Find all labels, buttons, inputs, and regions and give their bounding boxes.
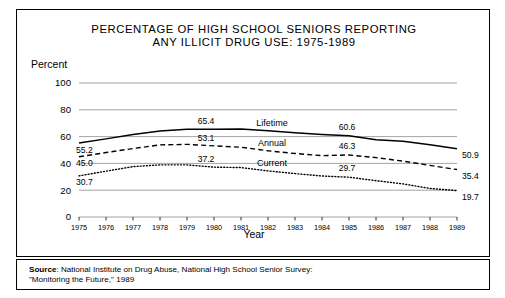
gridlines-group bbox=[79, 83, 457, 217]
x-tick-label: 1975 bbox=[71, 223, 87, 232]
series-name-lifetime: Lifetime bbox=[256, 118, 288, 128]
y-tick-label: 80 bbox=[60, 104, 71, 115]
source-line-2: "Monitoring the Future," 1989 bbox=[29, 275, 134, 284]
series-name-current: Current bbox=[257, 158, 288, 168]
end-value-label-lifetime: 50.9 bbox=[462, 150, 479, 160]
start-value-label-annual: 45.0 bbox=[76, 158, 93, 168]
end-value-label-annual: 35.4 bbox=[462, 171, 479, 181]
source-line-1: : National Institute on Drug Abuse, Nati… bbox=[56, 265, 312, 274]
x-tick-label: 1987 bbox=[395, 223, 411, 232]
late-value-label-current: 29.7 bbox=[339, 163, 356, 173]
series-line-current bbox=[79, 165, 457, 191]
mid-value-label-lifetime: 65.4 bbox=[198, 116, 215, 126]
y-tick-label: 100 bbox=[55, 77, 71, 88]
x-tick-label: 1984 bbox=[314, 223, 330, 232]
late-value-label-lifetime: 60.6 bbox=[339, 122, 356, 132]
source-note: Source: National Institute on Drug Abuse… bbox=[29, 265, 479, 285]
y-tick-label: 20 bbox=[60, 185, 71, 196]
start-value-label-current: 30.7 bbox=[76, 177, 93, 187]
x-tick-label: 1988 bbox=[422, 223, 438, 232]
series-value-labels-group: 55.265.4Lifetime60.650.945.053.1Annual46… bbox=[76, 116, 479, 201]
source-panel: Source: National Institute on Drug Abuse… bbox=[16, 259, 490, 290]
y-tick-label: 0 bbox=[66, 211, 71, 222]
x-tick-label: 1989 bbox=[449, 223, 465, 232]
late-value-label-annual: 46.3 bbox=[339, 141, 356, 151]
x-tick-label: 1985 bbox=[341, 223, 357, 232]
x-tick-labels-group: 1975197619771978197919801981198219831984… bbox=[71, 223, 465, 232]
plot-area: 020406080100 197519761977197819791980198… bbox=[17, 10, 491, 258]
x-tick-label: 1980 bbox=[206, 223, 222, 232]
x-axis-title: Year bbox=[243, 228, 265, 240]
start-value-label-lifetime: 55.2 bbox=[76, 145, 93, 155]
y-tick-label: 60 bbox=[60, 131, 71, 142]
x-tick-label: 1983 bbox=[287, 223, 303, 232]
chart-panel: PERCENTAGE OF HIGH SCHOOL SENIORS REPORT… bbox=[16, 9, 490, 257]
end-value-label-current: 19.7 bbox=[462, 192, 479, 202]
y-tick-labels-group: 020406080100 bbox=[55, 77, 71, 222]
x-tick-label: 1978 bbox=[152, 223, 168, 232]
y-tick-label: 40 bbox=[60, 158, 71, 169]
series-name-annual: Annual bbox=[258, 138, 286, 148]
x-tick-label: 1979 bbox=[179, 223, 195, 232]
figure-root: PERCENTAGE OF HIGH SCHOOL SENIORS REPORT… bbox=[0, 0, 505, 298]
x-tick-marks-group bbox=[79, 217, 457, 221]
mid-value-label-annual: 53.1 bbox=[198, 133, 215, 143]
x-tick-label: 1977 bbox=[125, 223, 141, 232]
x-tick-label: 1986 bbox=[368, 223, 384, 232]
x-tick-label: 1976 bbox=[98, 223, 114, 232]
source-label: Source bbox=[29, 265, 56, 274]
mid-value-label-current: 37.2 bbox=[198, 154, 215, 164]
